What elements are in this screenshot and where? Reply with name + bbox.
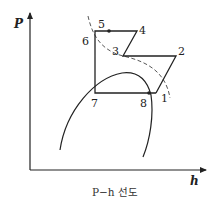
y-axis-label: P	[13, 17, 24, 31]
point-label-2: 2	[178, 45, 185, 58]
saturation-dome	[60, 73, 152, 157]
point-label-5: 5	[98, 18, 105, 31]
point-label-1: 1	[161, 92, 168, 105]
point-label-6: 6	[82, 35, 89, 48]
cycle-path	[95, 31, 176, 93]
diagram-caption: P−h 선도	[92, 186, 138, 198]
x-axis-label: h	[190, 174, 199, 188]
point-8-dot	[147, 91, 151, 95]
point-label-8: 8	[140, 97, 147, 110]
point-label-7: 7	[91, 97, 98, 110]
point-label-3: 3	[112, 45, 119, 58]
ph-diagram: P h 5 4 6 3 2 7 8 1 P−h 선도	[0, 0, 222, 208]
point-5-dot	[107, 29, 111, 33]
point-label-4: 4	[139, 24, 146, 37]
